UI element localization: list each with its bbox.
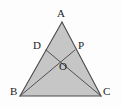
vertex-label-c: C bbox=[103, 86, 110, 97]
point-label-o: O bbox=[59, 61, 67, 72]
point-label-d: D bbox=[33, 40, 41, 51]
geometry-figure: A B C D P O bbox=[0, 0, 121, 108]
triangle-abc-fill bbox=[20, 22, 101, 96]
point-label-p: P bbox=[78, 40, 84, 51]
vertex-label-b: B bbox=[10, 86, 17, 97]
vertex-label-a: A bbox=[57, 8, 65, 19]
